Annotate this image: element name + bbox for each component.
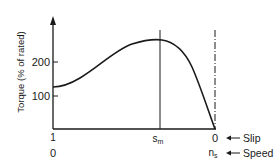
y-axis-label: Torque (% of rated) bbox=[15, 31, 26, 112]
y-axis-arrow-icon bbox=[50, 16, 56, 25]
torque-slip-diagram: 200 100 Torque (% of rated) 1 sm 0 Slip … bbox=[0, 0, 279, 168]
torque-curve bbox=[53, 40, 215, 129]
slip-label-zero: 0 bbox=[212, 132, 218, 144]
y-tick-label-200: 200 bbox=[32, 56, 50, 68]
speed-arrow-icon bbox=[226, 151, 231, 156]
speed-label-ns: ns bbox=[208, 147, 218, 159]
slip-label-one: 1 bbox=[50, 132, 56, 143]
y-tick-label-100: 100 bbox=[32, 90, 50, 102]
slip-arrow-icon bbox=[226, 136, 231, 141]
slip-label-sm: sm bbox=[153, 133, 164, 145]
speed-label-zero: 0 bbox=[50, 147, 56, 159]
speed-axis-label: Speed bbox=[243, 147, 274, 159]
slip-axis-label: Slip bbox=[243, 132, 261, 144]
